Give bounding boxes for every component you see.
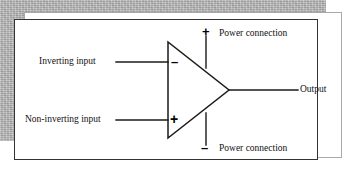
label-non-inverting-input: Non-inverting input xyxy=(25,115,101,125)
label-negative-power-connection: Power connection xyxy=(219,144,287,154)
figure-panel-frame xyxy=(14,19,318,160)
label-inverting-input: Inverting input xyxy=(39,57,96,67)
figure-root: – + + – Inverting input Non-inverting in… xyxy=(0,0,344,171)
label-positive-power-connection: Power connection xyxy=(219,29,287,39)
negative-supply-minus-sign: – xyxy=(201,141,208,154)
positive-supply-plus-sign: + xyxy=(202,25,210,38)
label-output: Output xyxy=(300,85,326,95)
inverting-minus-sign: – xyxy=(171,55,178,68)
non-inverting-plus-sign: + xyxy=(170,112,178,126)
